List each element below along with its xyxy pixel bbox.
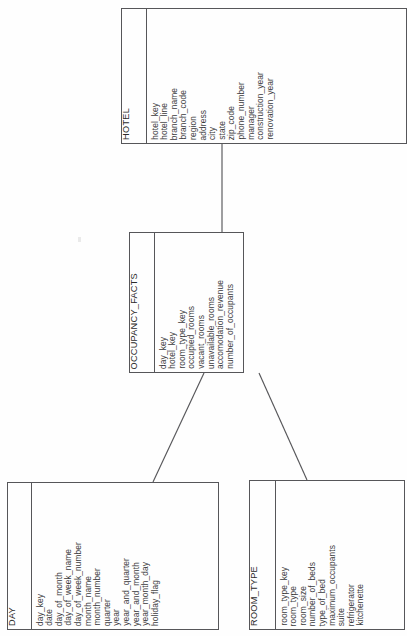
attribute-item: number_of_occupants [226, 284, 234, 369]
attribute-item: construction_year [256, 72, 264, 140]
entity-occupancy-facts-name: OCCUPANCY_FACTS [130, 270, 141, 373]
attribute-item: type_of_bed [318, 579, 326, 626]
attribute-item: occupied_rooms [187, 306, 195, 369]
attribute-item: quarter [103, 599, 111, 626]
entity-hotel-title-compartment: HOTEL [122, 9, 147, 143]
attribute-item: day_of_month [55, 572, 63, 626]
attribute-item: year_month_day [141, 562, 149, 626]
attribute-item: renovation_year [266, 78, 274, 140]
attribute-item: address [199, 110, 207, 141]
attribute-item: unavailable_rooms [207, 297, 215, 369]
attribute-item: year [112, 609, 120, 626]
attribute-item: day_of_week_name [64, 549, 72, 626]
attribute-item: branch_code [179, 90, 187, 140]
attribute-item: number_of_beds [308, 562, 316, 626]
scan-artifact [78, 237, 81, 242]
attribute-item: day_key [159, 337, 167, 369]
attribute-item: vacant_rooms [197, 315, 205, 369]
attribute-item: day_key [36, 594, 44, 626]
attribute-item: date [45, 609, 53, 626]
attribute-item: kitchenette [356, 584, 364, 626]
entity-day[interactable]: DAY day_key date day_of_month day_of_wee… [7, 482, 219, 630]
attribute-item: manager [247, 106, 255, 140]
entity-day-name: DAY [8, 604, 19, 629]
attribute-item: maximum_occupants [328, 545, 336, 626]
attribute-item: region [189, 116, 197, 140]
entity-occupancy-facts-attribute-list: day_key hotel_key room_type_key occupied… [155, 233, 243, 372]
entity-room-type-attribute-list: room_type_key room_type room_size number… [276, 481, 404, 629]
entity-room-type-name: ROOM_TYPE [250, 563, 261, 629]
attribute-item: year_and_month [132, 562, 140, 626]
attribute-item: year_and_quarter [122, 558, 130, 626]
attribute-item: state [218, 121, 226, 140]
er-diagram-canvas: HOTEL hotel_key hotel_line branch_name b… [0, 0, 407, 636]
attribute-item: city [208, 127, 216, 140]
attribute-item: room_type [289, 586, 297, 626]
attribute-item: zip_code [227, 106, 235, 140]
attribute-item: month_name [84, 576, 92, 626]
entity-day-attribute-list: day_key date day_of_month day_of_week_na… [32, 483, 218, 629]
entity-day-title-compartment: DAY [8, 483, 32, 629]
relationship-line-occupancy-day [153, 373, 204, 482]
attribute-item: room_type_key [280, 567, 288, 626]
entity-hotel[interactable]: HOTEL hotel_key hotel_line branch_name b… [121, 8, 407, 144]
attribute-item: day_of_week_number [74, 542, 82, 626]
entity-occupancy-facts-title-compartment: OCCUPANCY_FACTS [130, 233, 155, 372]
entity-room-type-title-compartment: ROOM_TYPE [250, 481, 276, 629]
attribute-item: hotel_key [151, 103, 159, 140]
attribute-item: refrigerator [347, 584, 355, 626]
attribute-item: hotel_key [168, 332, 176, 369]
attribute-item: month_number [93, 568, 101, 626]
entity-hotel-attribute-list: hotel_key hotel_line branch_name branch_… [147, 9, 406, 143]
attribute-item: holiday_flag [151, 580, 159, 626]
entity-room-type[interactable]: ROOM_TYPE room_type_key room_type room_s… [249, 480, 405, 630]
attribute-item: accomodation_revenue [216, 280, 224, 369]
attribute-item: hotel_line [160, 103, 168, 140]
attribute-item: room_size [299, 586, 307, 626]
entity-occupancy-facts[interactable]: OCCUPANCY_FACTS day_key hotel_key room_t… [129, 232, 244, 373]
attribute-item: room_type_key [178, 310, 186, 369]
relationship-line-occupancy-room-type [259, 373, 307, 480]
entity-hotel-name: HOTEL [122, 105, 133, 143]
attribute-item: phone_number [237, 82, 245, 140]
attribute-item: suite [337, 608, 345, 626]
attribute-item: branch_name [170, 88, 178, 140]
